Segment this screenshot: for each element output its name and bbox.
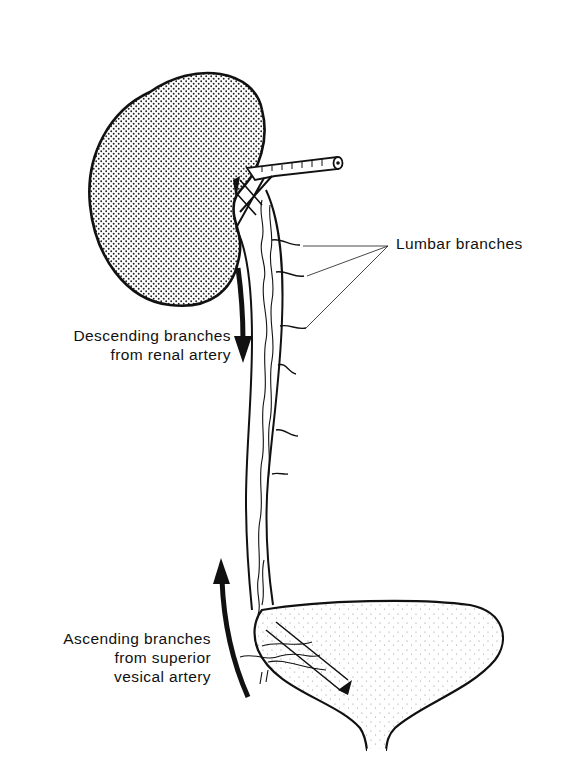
label-line: Ascending branches bbox=[63, 629, 211, 648]
label-lumbar-branches: Lumbar branches bbox=[396, 234, 523, 253]
label-line: from renal artery bbox=[73, 345, 231, 364]
label-ascending-branches: Ascending branches from superior vesical… bbox=[63, 629, 211, 686]
ascending-arrow bbox=[213, 558, 248, 697]
lumbar-branch-twigs bbox=[272, 240, 306, 475]
bladder bbox=[240, 601, 503, 750]
renal-artery bbox=[233, 157, 343, 228]
label-line: from superior bbox=[63, 648, 211, 667]
label-descending-branches: Descending branches from renal artery bbox=[73, 326, 231, 364]
label-line: Lumbar branches bbox=[396, 234, 523, 253]
label-line: Descending branches bbox=[73, 326, 231, 345]
ureter bbox=[236, 190, 282, 615]
ureter-blood-supply-diagram: Lumbar branches Descending branches from… bbox=[0, 0, 581, 773]
label-line: vesical artery bbox=[63, 667, 211, 686]
lumbar-leader-lines bbox=[303, 246, 388, 328]
